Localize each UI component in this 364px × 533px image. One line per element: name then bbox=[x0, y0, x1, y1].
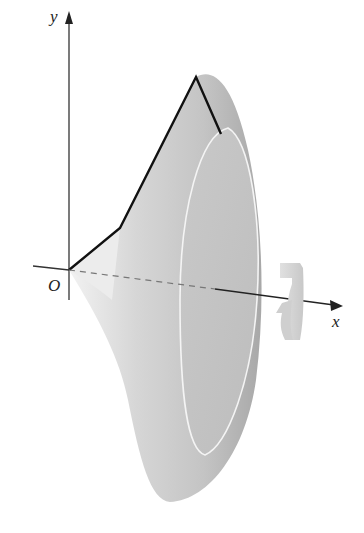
x-axis-arrowhead-icon bbox=[330, 300, 343, 311]
origin-label: O bbox=[48, 276, 60, 295]
x-axis-label: x bbox=[331, 312, 340, 331]
solid-of-revolution-diagram: y O x bbox=[0, 0, 364, 533]
y-axis-label: y bbox=[48, 7, 58, 26]
rotation-arrow-icon bbox=[276, 263, 304, 340]
y-axis-arrowhead-icon bbox=[65, 11, 73, 24]
y-axis bbox=[65, 11, 73, 300]
